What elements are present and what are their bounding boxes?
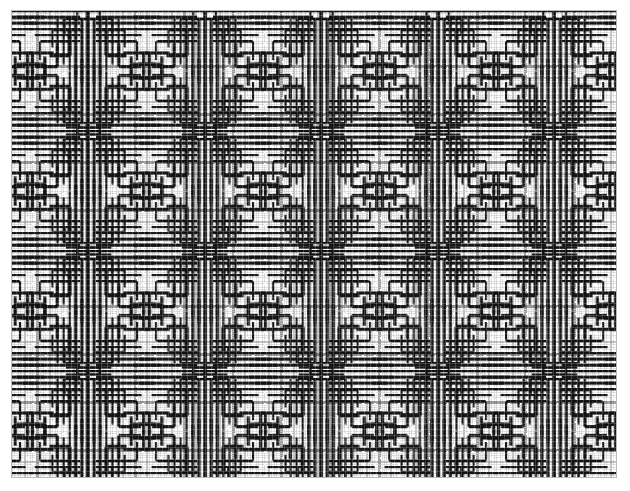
page-root: Generative Grid Lattice Pattern Dense wo… [0, 0, 630, 491]
generative-pattern-canvas [12, 11, 617, 478]
artwork-frame [11, 10, 617, 478]
